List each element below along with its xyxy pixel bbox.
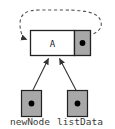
listdata-label: listData — [57, 116, 103, 127]
newnode-pointer-arrow — [32, 59, 49, 94]
listdata-pointer-dot — [75, 101, 81, 107]
linked-list-diagram: A newNode listData — [0, 0, 115, 129]
pointer-box-newnode[interactable] — [22, 91, 42, 117]
newnode-label: newNode — [10, 116, 50, 127]
listdata-pointer-arrow — [60, 59, 78, 94]
diagram-canvas: A newNode listData — [0, 0, 115, 129]
newnode-pointer-dot — [29, 101, 35, 107]
pointer-box-listdata[interactable] — [68, 91, 88, 117]
node-data-value: A — [50, 39, 56, 49]
node-next-pointer-dot — [80, 40, 86, 46]
list-node[interactable]: A — [31, 31, 91, 56]
